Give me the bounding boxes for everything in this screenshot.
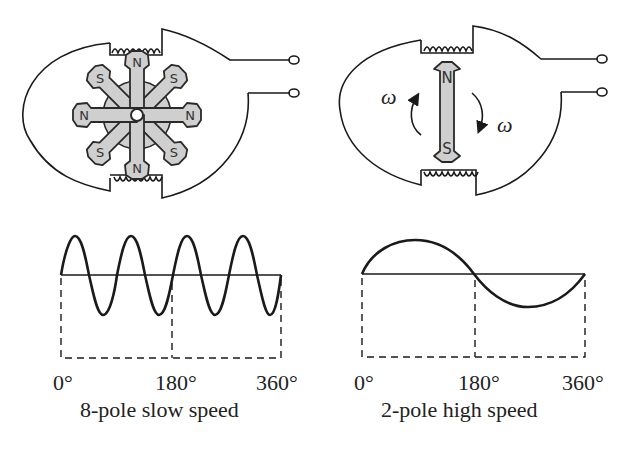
pole-label: S: [96, 71, 104, 86]
diagram-canvas: N S N S N S N S N S ω ω 0° 180° 360°: [0, 0, 642, 449]
rotation-arrow-right-icon: [472, 93, 482, 128]
pole-label: N: [132, 55, 142, 70]
eight-pole-generator: N S N S N S N S: [23, 29, 299, 198]
magnet-north-label: N: [441, 69, 452, 87]
terminal-bottom: [597, 88, 607, 96]
pole-label: N: [185, 108, 195, 123]
pole-label: S: [96, 145, 104, 160]
terminal-bottom: [289, 89, 299, 97]
omega-left-label: ω: [381, 84, 397, 109]
terminal-top: [597, 55, 607, 63]
caption: 2-pole high speed: [381, 397, 537, 422]
pole-label: N: [79, 108, 89, 123]
two-pole-waveform: 0° 180° 360° 2-pole high speed: [354, 240, 604, 422]
omega-right-label: ω: [497, 112, 513, 137]
rotation-arrow-left-icon: [411, 98, 421, 135]
tick-label-180: 180°: [155, 370, 197, 395]
tick-label-0: 0°: [354, 370, 374, 395]
magnet-south-label: S: [442, 140, 452, 158]
tick-label-360: 360°: [256, 370, 298, 395]
pole-label: N: [132, 161, 142, 176]
pole-label: S: [170, 71, 178, 86]
pole-label: S: [170, 145, 178, 160]
guide-lines: [362, 278, 585, 357]
terminal-top: [289, 56, 299, 64]
tick-label-180: 180°: [458, 370, 500, 395]
eight-pole-waveform: 0° 180° 360° 8-pole slow speed: [53, 236, 298, 422]
two-pole-generator: N S ω ω: [339, 26, 607, 195]
coil-bottom: [424, 172, 478, 176]
caption: 8-pole slow speed: [80, 397, 239, 422]
tick-label-0: 0°: [53, 370, 73, 395]
stator-frame: [339, 26, 597, 195]
eight-pole-rotor: N S N S N S N S: [73, 51, 201, 179]
tick-label-360: 360°: [562, 370, 604, 395]
coil-top: [424, 47, 472, 51]
